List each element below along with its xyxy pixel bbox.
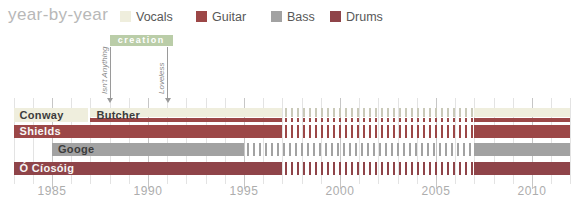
record-label-period-bar: creation	[110, 35, 173, 46]
member-dash-butcher	[375, 108, 377, 117]
album-marker-arrow-icon	[107, 98, 113, 103]
member-dash-butcher	[315, 108, 317, 117]
member-bar-googe	[474, 143, 570, 156]
member-label-shields: Shields	[20, 126, 61, 137]
member-dash-shields	[345, 125, 347, 138]
member-dash-googe	[259, 143, 261, 156]
member-dash--c-os-ig	[363, 162, 365, 175]
member-dash--c-os-ig	[303, 162, 305, 175]
axis-label-1990: 1990	[126, 184, 170, 198]
album-marker-arrow-icon	[165, 98, 171, 103]
member-dash-googe	[319, 143, 321, 156]
member-dash-butcher	[357, 118, 359, 122]
member-label-googe: Googe	[58, 144, 94, 155]
member-dash-butcher	[291, 108, 293, 117]
member-dash-shields	[459, 125, 461, 138]
member-dash-butcher	[453, 118, 455, 122]
member-dash-shields	[363, 125, 365, 138]
member-dash-butcher	[459, 108, 461, 117]
member-dash-butcher	[465, 108, 467, 117]
member-dash-butcher	[405, 108, 407, 117]
legend-label: Drums	[346, 10, 383, 24]
member-dash-butcher	[405, 118, 407, 122]
member-dash-butcher	[429, 108, 431, 117]
legend-label: Vocals	[136, 10, 173, 24]
bass-color-swatch-icon	[271, 11, 282, 22]
member-dash-butcher	[309, 108, 311, 117]
member-dash-googe	[247, 143, 249, 156]
member-dash--c-os-ig	[285, 162, 287, 175]
member-dash-googe	[283, 143, 285, 156]
member-dash--c-os-ig	[297, 162, 299, 175]
member-dash--c-os-ig	[411, 162, 413, 175]
member-dash-butcher	[453, 108, 455, 117]
member-dash-butcher	[303, 108, 305, 117]
member-dash-shields	[297, 125, 299, 138]
member-dash-butcher	[411, 108, 413, 117]
member-dash-butcher	[465, 118, 467, 122]
member-dash-butcher	[285, 108, 287, 117]
member-dash--c-os-ig	[309, 162, 311, 175]
member-dash-shields	[291, 125, 293, 138]
member-dash-shields	[429, 125, 431, 138]
member-dash--c-os-ig	[417, 162, 419, 175]
member-dash-googe	[421, 143, 423, 156]
axis-label-2005: 2005	[414, 184, 458, 198]
member-dash--c-os-ig	[429, 162, 431, 175]
member-dash--c-os-ig	[447, 162, 449, 175]
member-dash--c-os-ig	[435, 162, 437, 175]
member-dash-butcher	[399, 118, 401, 122]
member-dash-shields	[417, 125, 419, 138]
legend-label: Bass	[287, 10, 315, 24]
member-dash--c-os-ig	[459, 162, 461, 175]
member-dash-butcher	[471, 108, 473, 117]
member-dash-googe	[361, 143, 363, 156]
member-dash-googe	[385, 143, 387, 156]
member-dash-butcher	[321, 108, 323, 117]
member-dash-googe	[445, 143, 447, 156]
member-dash-shields	[387, 125, 389, 138]
album-marker-label-isn-t-anything: Isn't Anything	[100, 47, 109, 94]
member-dash--c-os-ig	[471, 162, 473, 175]
member-dash-googe	[439, 143, 441, 156]
member-dash--c-os-ig	[453, 162, 455, 175]
member-dash-shields	[315, 125, 317, 138]
member-dash-googe	[391, 143, 393, 156]
member-dash-butcher	[333, 108, 335, 117]
member-dash-butcher	[339, 118, 341, 122]
member-dash-shields	[321, 125, 323, 138]
legend-label: Guitar	[212, 10, 246, 24]
axis-label-2010: 2010	[510, 184, 554, 198]
member-dash-shields	[381, 125, 383, 138]
record-label-period-label: creation	[110, 35, 173, 46]
member-dash-butcher	[441, 108, 443, 117]
member-dash--c-os-ig	[465, 162, 467, 175]
member-dash-shields	[369, 125, 371, 138]
member-dash-butcher	[393, 118, 395, 122]
member-dash-shields	[375, 125, 377, 138]
member-dash--c-os-ig	[387, 162, 389, 175]
member-dash-butcher	[423, 108, 425, 117]
member-dash-butcher	[381, 118, 383, 122]
member-dash--c-os-ig	[315, 162, 317, 175]
member-label--c-os-ig: Ó Cíosóig	[20, 163, 75, 174]
member-dash-googe	[451, 143, 453, 156]
axis-label-1995: 1995	[222, 184, 266, 198]
member-bar-shields	[474, 125, 570, 138]
album-marker-line-loveless	[167, 47, 168, 98]
member-dash--c-os-ig	[339, 162, 341, 175]
gridline-2012	[570, 98, 571, 184]
member-dash--c-os-ig	[369, 162, 371, 175]
chart-title: year-by-year	[8, 5, 108, 25]
member-dash--c-os-ig	[375, 162, 377, 175]
member-dash-googe	[313, 143, 315, 156]
member-dash-butcher	[357, 108, 359, 117]
member-dash-butcher	[369, 118, 371, 122]
axis-label-2000: 2000	[318, 184, 362, 198]
member-dash--c-os-ig	[399, 162, 401, 175]
guitar-color-swatch-icon	[196, 11, 207, 22]
member-dash-shields	[453, 125, 455, 138]
member-dash-butcher	[351, 118, 353, 122]
member-dash-shields	[405, 125, 407, 138]
gridline-2002	[378, 98, 379, 184]
